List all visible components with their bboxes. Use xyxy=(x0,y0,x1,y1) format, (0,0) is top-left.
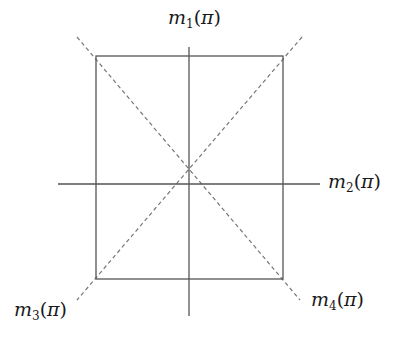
label-m2-sub: 2 xyxy=(346,181,354,195)
label-m3-sub: 3 xyxy=(32,309,40,323)
label-m3: m3(π) xyxy=(14,300,67,322)
label-m4-arg: π xyxy=(344,288,357,310)
label-m2: m2(π) xyxy=(328,172,381,194)
label-m4-sub: 4 xyxy=(329,299,337,313)
label-m1-sub: 1 xyxy=(186,17,194,31)
label-m3-arg: π xyxy=(47,298,60,320)
label-m3-base: m xyxy=(14,298,32,320)
label-m1: m1(π) xyxy=(168,8,221,30)
label-m4-base: m xyxy=(311,288,329,310)
label-m1-base: m xyxy=(168,6,186,28)
label-m2-base: m xyxy=(328,170,346,192)
label-m4: m4(π) xyxy=(311,290,364,312)
label-m2-arg: π xyxy=(361,170,374,192)
label-m1-arg: π xyxy=(201,6,214,28)
